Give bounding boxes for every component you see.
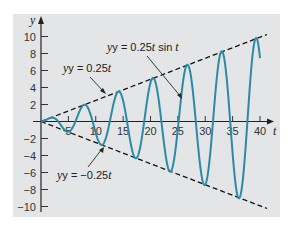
x-tick-label: 20 — [144, 125, 156, 137]
y-axis-label: y — [29, 13, 36, 27]
y-tick-label: 2 — [30, 99, 36, 111]
x-tick-label: 40 — [254, 125, 266, 137]
annot-lower-eq: y = −0.25 — [62, 169, 108, 181]
y-tick-label: −4 — [23, 150, 36, 162]
y-tick-label: −10 — [17, 201, 36, 213]
chart: t y 510152025303540 −10−8−6−4−2246810 yy… — [0, 0, 293, 229]
y-tick-label: 8 — [30, 48, 36, 60]
annot-curve-sin: sin — [155, 41, 175, 53]
y-tick-label: 6 — [30, 65, 36, 77]
x-tick-label: 30 — [199, 125, 211, 137]
x-tick-label: 35 — [227, 125, 239, 137]
y-tick-label: −6 — [23, 167, 36, 179]
y-tick-label: 4 — [30, 82, 36, 94]
annotation-lower: yy = −0.25t — [56, 168, 112, 182]
y-tick-label: 10 — [24, 31, 36, 43]
annotation-upper: yy = 0.25t — [62, 61, 112, 75]
annot-curve-eq: y = 0.25 — [112, 41, 151, 53]
annot-upper-eq: y = 0.25 — [68, 62, 107, 74]
y-tick-label: −2 — [23, 133, 36, 145]
annotation-curve: yy = 0.25t sin t — [106, 40, 179, 54]
y-tick-label: −8 — [23, 184, 36, 196]
